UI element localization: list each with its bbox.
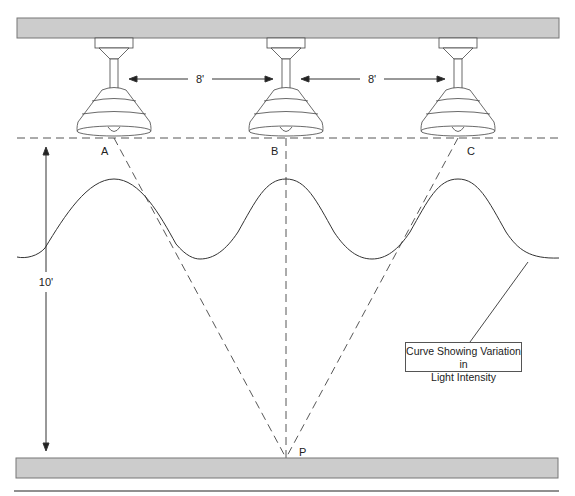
- lamp-label-b: B: [271, 145, 278, 157]
- callout-line-2: Light Intensity: [406, 371, 521, 384]
- spacing-label-bc: 8': [368, 73, 376, 85]
- ray-c-to-p: [286, 138, 458, 458]
- ray-a-to-p: [114, 138, 286, 458]
- lamp-c: [421, 38, 495, 136]
- callout-leader: [470, 262, 528, 342]
- lamp-label-c: C: [467, 145, 475, 157]
- intensity-curve: [17, 179, 559, 259]
- point-p-label: P: [299, 446, 306, 458]
- height-label: 10': [39, 276, 53, 288]
- floor-bar: [16, 458, 558, 478]
- lamp-label-a: A: [101, 145, 109, 157]
- spacing-label-ab: 8': [196, 73, 204, 85]
- ceiling-bar: [17, 18, 559, 38]
- lamp-a: [77, 38, 151, 136]
- lighting-diagram: 8' 8' A B C 10' P: [0, 0, 575, 496]
- lamp-b: [249, 38, 323, 136]
- callout-box: Curve Showing Variation in Light Intensi…: [405, 342, 522, 372]
- height-arrow: [43, 147, 49, 451]
- callout-line-1: Curve Showing Variation in: [406, 345, 521, 371]
